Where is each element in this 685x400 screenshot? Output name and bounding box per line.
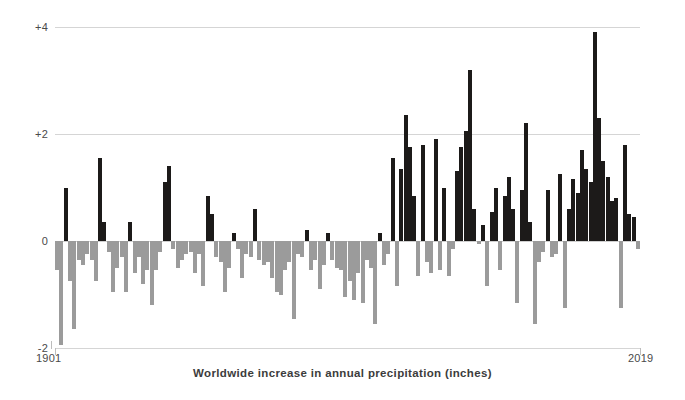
bar [541,241,545,252]
precipitation-bar-chart: +4 +2 0 -2 1901 2019 Worldwide increase … [0,0,685,400]
y-axis-stub [51,341,52,349]
y-axis-tick-label: +4 [35,21,48,33]
bar [558,174,562,241]
gridline-minus-2 [55,348,640,349]
bar [124,241,128,292]
bar [167,166,171,241]
y-axis-tick-label: +2 [35,128,48,140]
bar [477,241,481,244]
bar [59,241,63,345]
bar [322,241,326,265]
bar [253,209,257,241]
x-axis-label-start: 1901 [36,352,61,364]
bar [515,241,519,303]
bar-series [55,27,640,348]
bar [227,241,231,268]
plot-area [55,27,640,348]
bar [305,230,309,241]
bar [619,241,623,308]
bar [158,241,162,252]
bar [249,241,253,257]
bar [102,222,106,241]
bar [485,241,489,286]
bar [326,233,330,241]
bar [451,241,455,249]
bar [373,241,377,324]
bar [232,233,236,241]
bar [300,241,304,257]
bar [498,241,502,270]
bar [64,188,68,242]
bar [391,158,395,241]
bar [395,241,399,286]
bar [429,241,433,273]
bar [472,209,476,241]
bar [434,139,438,241]
bar [412,196,416,241]
x-axis-label-end: 2019 [628,352,653,364]
bar [481,225,485,241]
bar [438,241,442,270]
bar [632,217,636,241]
bar [563,241,567,308]
bar [386,241,390,254]
chart-caption: Worldwide increase in annual precipitati… [0,367,685,379]
bar [636,241,640,249]
bar [528,222,532,241]
bar [378,233,382,241]
bar [128,222,132,241]
y-axis-tick-label: 0 [42,235,48,247]
bar [94,241,98,281]
bar [210,214,214,241]
bar [494,188,498,242]
bar [554,241,558,254]
y-axis: +4 +2 0 -2 [0,0,48,400]
bar [416,241,420,276]
bar [421,145,425,241]
bar [546,190,550,241]
bar [511,209,515,241]
bar [614,198,618,241]
bar [201,241,205,286]
bar [442,188,446,242]
